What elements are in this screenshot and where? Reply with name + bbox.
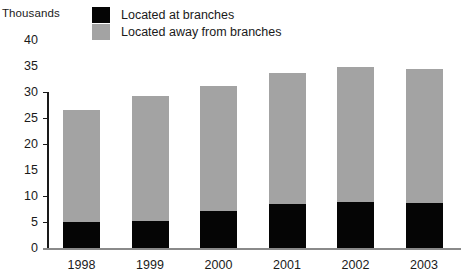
y-tick-label: 10 [10, 190, 38, 203]
y-tick-label: 40 [10, 34, 38, 47]
bar-1999 [132, 96, 169, 248]
y-tick-label: 25 [10, 112, 38, 125]
bar-segment-away-from-branches [269, 73, 306, 204]
y-tick-label: 30 [10, 86, 38, 99]
bar-2001 [269, 73, 306, 248]
bar-segment-away-from-branches [406, 69, 443, 203]
bar-segment-at-branches [337, 202, 374, 248]
y-axis-tickmark [43, 118, 48, 119]
bar-segment-at-branches [406, 203, 443, 248]
x-tick-label-2001: 2001 [257, 258, 318, 272]
bar-segment-at-branches [132, 221, 169, 248]
x-tick-label-2002: 2002 [325, 258, 386, 272]
y-axis-spine [47, 92, 49, 248]
bar-segment-away-from-branches [337, 67, 374, 202]
bar-segment-at-branches [200, 211, 237, 248]
x-tick-label-1998: 1998 [51, 258, 112, 272]
bar-segment-at-branches [63, 222, 100, 248]
x-tick-label-1999: 1999 [120, 258, 181, 272]
plot-area: 0510152025303540199819992000200120022003 [0, 0, 465, 278]
bar-2002 [337, 67, 374, 248]
x-axis-baseline [43, 248, 461, 250]
y-axis-tick-labels: 0510152025303540 [10, 0, 38, 278]
bar-2003 [406, 69, 443, 248]
bar-2000 [200, 86, 237, 248]
bar-1998 [63, 110, 100, 248]
x-tick-label-2003: 2003 [394, 258, 455, 272]
y-axis-tickmark [43, 144, 48, 145]
bar-segment-away-from-branches [132, 96, 169, 221]
y-tick-label: 20 [10, 138, 38, 151]
bar-segment-at-branches [269, 204, 306, 248]
bar-segment-away-from-branches [63, 110, 100, 222]
y-axis-tickmark [43, 196, 48, 197]
y-axis-tickmark [43, 222, 48, 223]
y-tick-label: 35 [10, 60, 38, 73]
bar-segment-away-from-branches [200, 86, 237, 211]
y-tick-label: 5 [10, 216, 38, 229]
y-axis-tickmark [43, 92, 48, 93]
stacked-bar-chart: Thousands Located at branches Located aw… [0, 0, 465, 278]
x-tick-label-2000: 2000 [188, 258, 249, 272]
y-tick-label: 0 [10, 242, 38, 255]
y-tick-label: 15 [10, 164, 38, 177]
